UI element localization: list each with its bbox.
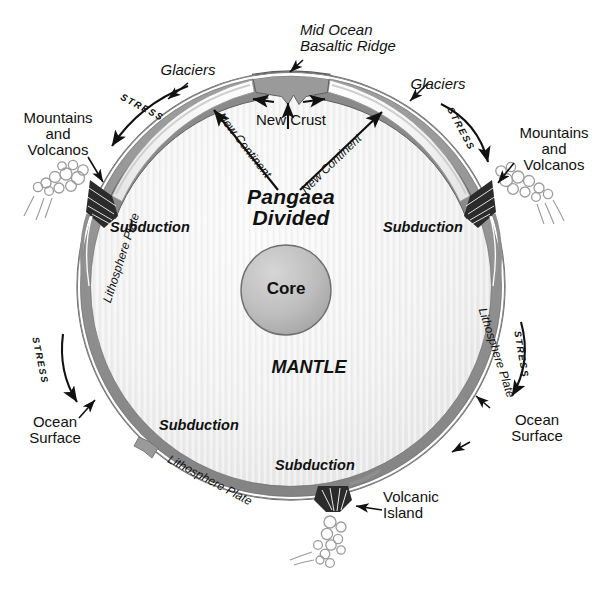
label-glaciers-left: Glaciers: [148, 62, 228, 78]
label-new-crust: New Crust: [238, 112, 344, 128]
smoke-plume-icon: [290, 516, 346, 567]
label-mid-ocean-ridge: Mid Ocean Basaltic Ridge: [300, 22, 460, 54]
diagram-canvas: Mid Ocean Basaltic Ridge New Crust New C…: [0, 0, 598, 593]
label-subduction-lower-left: Subduction: [159, 418, 239, 434]
label-mountains-volcanos-left: Mountains and Volcanos: [12, 110, 104, 159]
label-mantle: MANTLE: [256, 358, 362, 377]
label-mountains-volcanos-right: Mountains and Volcanos: [508, 125, 598, 174]
label-core: Core: [246, 280, 326, 298]
stress-arrow-lower-left: [62, 334, 77, 402]
label-subduction-upper-right: Subduction: [383, 220, 463, 236]
label-pangaea-divided: Pangaea Divided: [226, 186, 356, 228]
smoke-plume-icon: [24, 160, 88, 220]
ridge-leader-arrow: [290, 60, 303, 72]
label-ocean-surface-right: Ocean Surface: [496, 412, 578, 444]
label-glaciers-right: Glaciers: [398, 76, 478, 92]
label-ocean-surface-left: Ocean Surface: [14, 414, 96, 446]
label-volcanic-island: Volcanic Island: [383, 489, 469, 521]
label-subduction-lower-center: Subduction: [275, 458, 355, 474]
